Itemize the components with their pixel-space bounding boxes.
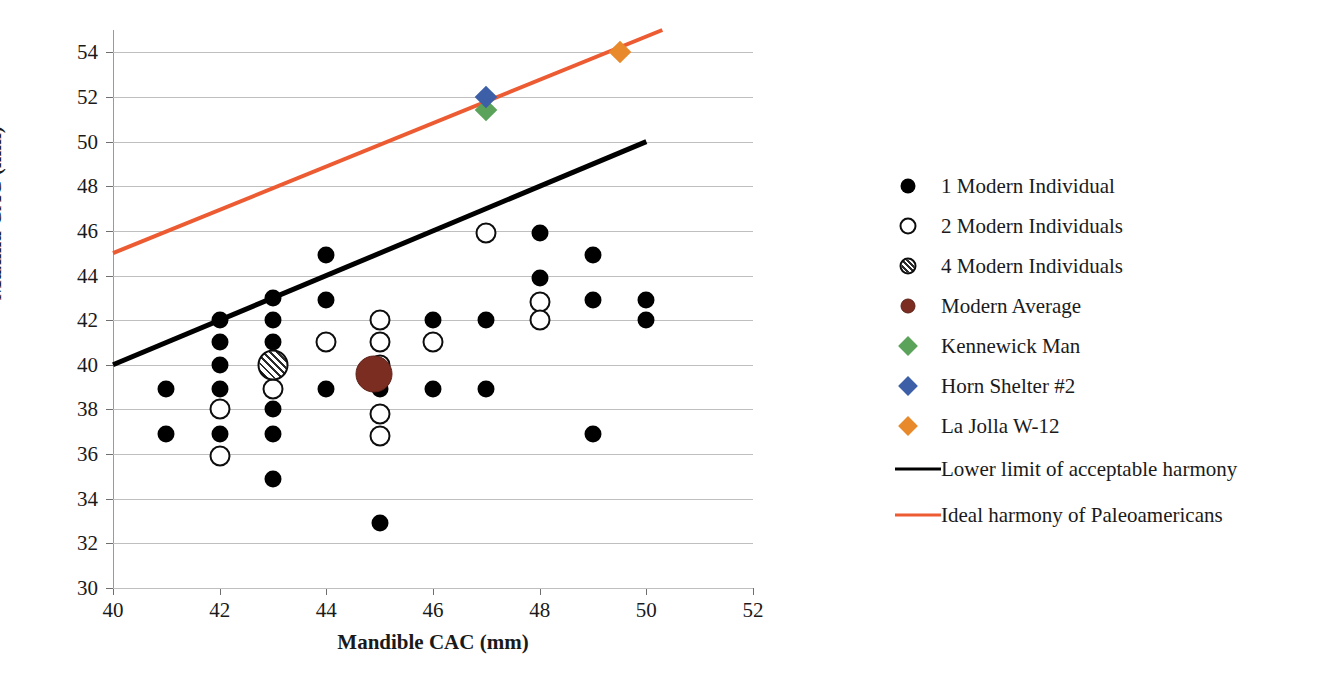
data-point-modern-individual	[158, 425, 175, 442]
y-tick-mark	[106, 97, 113, 98]
y-tick-mark	[106, 276, 113, 277]
x-tick-mark	[113, 588, 114, 595]
legend-item[interactable]: Modern Average	[895, 286, 1335, 326]
legend-label: Horn Shelter #2	[941, 374, 1075, 399]
legend-key	[895, 253, 941, 279]
data-point-modern-individual	[318, 381, 335, 398]
data-point-two-individuals	[369, 403, 390, 424]
legend-label: 1 Modern Individual	[941, 174, 1115, 199]
y-tick-mark	[106, 365, 113, 366]
data-point-two-individuals	[423, 332, 444, 353]
x-tick-mark	[753, 588, 754, 595]
legend-diamond-swatch	[898, 336, 918, 356]
x-tick-mark	[540, 588, 541, 595]
x-tick-label: 40	[103, 598, 124, 623]
legend-label: La Jolla W-12	[941, 414, 1060, 439]
trend-lines	[113, 30, 753, 588]
data-point-modern-individual	[318, 247, 335, 264]
legend-item[interactable]: Kennewick Man	[895, 326, 1335, 366]
legend-label: Kennewick Man	[941, 334, 1080, 359]
plot-area	[113, 30, 753, 588]
data-point-modern-individual	[371, 515, 388, 532]
x-tick-mark	[326, 588, 327, 595]
legend-label: Lower limit of acceptable harmony	[941, 457, 1237, 482]
legend-circle-swatch	[900, 258, 917, 275]
y-tick-label: 44	[52, 263, 98, 288]
y-tick-label: 50	[52, 129, 98, 154]
x-tick-mark	[433, 588, 434, 595]
y-tick-mark	[106, 186, 113, 187]
legend-key	[895, 413, 941, 439]
data-point-modern-individual	[585, 292, 602, 309]
legend-item[interactable]: Ideal harmony of Paleoamericans	[895, 492, 1335, 538]
legend-key	[895, 456, 941, 482]
data-point-modern-individual	[478, 312, 495, 329]
y-tick-label: 36	[52, 442, 98, 467]
legend-circle-swatch	[901, 299, 916, 314]
y-tick-label: 30	[52, 576, 98, 601]
legend-diamond-swatch	[898, 376, 918, 396]
data-point-modern-individual	[211, 381, 228, 398]
data-point-modern-individual	[531, 225, 548, 242]
data-point-two-individuals	[529, 310, 550, 331]
data-point-two-individuals	[316, 332, 337, 353]
data-point-modern-individual	[211, 312, 228, 329]
data-point-two-individuals	[209, 399, 230, 420]
legend-key	[895, 293, 941, 319]
data-point-modern-individual	[318, 292, 335, 309]
x-tick-label: 48	[529, 598, 550, 623]
data-point-modern-individual	[265, 401, 282, 418]
data-point-modern-individual	[425, 381, 442, 398]
data-point-modern-individual	[265, 312, 282, 329]
data-point-two-individuals	[369, 310, 390, 331]
legend-line-swatch	[895, 514, 941, 517]
legend: 1 Modern Individual2 Modern Individuals4…	[895, 166, 1335, 538]
data-point-two-individuals	[209, 446, 230, 467]
legend-key	[895, 502, 941, 528]
data-point-modern-individual	[211, 334, 228, 351]
x-tick-label: 46	[423, 598, 444, 623]
y-tick-mark	[106, 231, 113, 232]
legend-key	[895, 373, 941, 399]
data-point-modern-individual	[211, 356, 228, 373]
y-tick-mark	[106, 543, 113, 544]
legend-label: Modern Average	[941, 294, 1081, 319]
chart-root: Maxilla CAC (mm) Mandible CAC (mm) 30323…	[0, 0, 1340, 687]
legend-diamond-swatch	[898, 416, 918, 436]
y-tick-label: 52	[52, 84, 98, 109]
legend-label: Ideal harmony of Paleoamericans	[941, 503, 1223, 528]
y-axis-title: Maxilla CAC (mm)	[0, 126, 7, 300]
legend-label: 4 Modern Individuals	[941, 254, 1123, 279]
legend-item[interactable]: La Jolla W-12	[895, 406, 1335, 446]
legend-item[interactable]: 1 Modern Individual	[895, 166, 1335, 206]
x-tick-mark	[646, 588, 647, 595]
y-tick-label: 54	[52, 40, 98, 65]
legend-line-swatch	[895, 468, 941, 471]
x-axis-title: Mandible CAC (mm)	[113, 630, 753, 655]
legend-item[interactable]: Lower limit of acceptable harmony	[895, 446, 1335, 492]
data-point-modern-individual	[211, 425, 228, 442]
y-tick-label: 48	[52, 174, 98, 199]
legend-circle-swatch	[901, 179, 916, 194]
data-point-four-individuals	[258, 349, 289, 380]
x-tick-label: 42	[209, 598, 230, 623]
data-point-modern-individual	[265, 289, 282, 306]
legend-item[interactable]: 4 Modern Individuals	[895, 246, 1335, 286]
y-tick-label: 42	[52, 308, 98, 333]
data-point-two-individuals	[369, 426, 390, 447]
data-point-modern-individual	[478, 381, 495, 398]
legend-circle-swatch	[900, 218, 917, 235]
legend-item[interactable]: Horn Shelter #2	[895, 366, 1335, 406]
data-point-two-individuals	[369, 332, 390, 353]
y-tick-label: 38	[52, 397, 98, 422]
y-tick-label: 32	[52, 531, 98, 556]
y-tick-mark	[106, 499, 113, 500]
y-tick-mark	[106, 409, 113, 410]
data-point-modern-individual	[531, 269, 548, 286]
x-tick-label: 50	[636, 598, 657, 623]
legend-item[interactable]: 2 Modern Individuals	[895, 206, 1335, 246]
y-tick-label: 40	[52, 352, 98, 377]
y-tick-mark	[106, 320, 113, 321]
scatter-chart: Maxilla CAC (mm) Mandible CAC (mm) 30323…	[0, 0, 880, 687]
legend-label: 2 Modern Individuals	[941, 214, 1123, 239]
